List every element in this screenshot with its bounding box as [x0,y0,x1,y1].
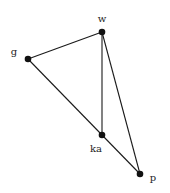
node-label-w: w [98,13,107,24]
node-label-ka: ka [90,143,102,154]
edge-w-g [28,32,102,59]
node-label-g: g [11,46,18,57]
edge-g-ka [28,59,102,135]
node-ka [99,132,106,139]
node-w [99,29,106,36]
edges [28,32,140,174]
graph-diagram: wgkap [0,0,170,193]
node-g [25,56,32,63]
node-label-p: p [150,172,156,183]
edge-w-p [102,32,140,174]
node-p [137,171,144,178]
nodes [25,29,144,178]
